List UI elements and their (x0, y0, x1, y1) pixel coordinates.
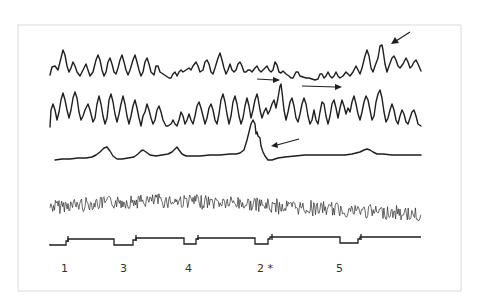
event-label-5: 5 (336, 262, 343, 275)
polygraph-figure: 1 3 4 2 * 5 (0, 0, 482, 308)
event-label-4: 4 (185, 262, 192, 275)
event-label-1: 1 (61, 262, 68, 275)
event-label-2-star: 2 * (257, 262, 273, 275)
event-label-3: 3 (120, 262, 127, 275)
